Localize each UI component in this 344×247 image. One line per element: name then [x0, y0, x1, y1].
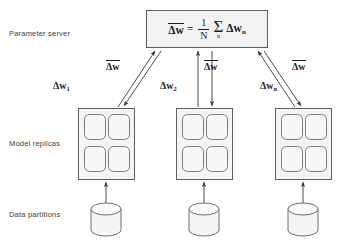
data-partition-1	[91, 203, 121, 236]
edge-label-gradient-2: Δw2	[160, 80, 177, 92]
edge-label-gradient-1-base: Δw	[53, 80, 67, 91]
edge-label-broadcast-2-base: Δw	[204, 60, 218, 72]
edge-label-gradient-n: Δwn	[260, 80, 277, 92]
edge-label-broadcast-2: Δw	[204, 60, 218, 72]
row-label-parameter-server: Parameter server	[9, 29, 70, 38]
edge-label-gradient-2-subscript: 2	[174, 85, 177, 92]
edge-label-gradient-2-base: Δw	[160, 80, 174, 91]
model-replica-2	[177, 109, 233, 180]
data-partition-n	[288, 203, 318, 236]
edge-label-gradient-n-base: Δw	[260, 80, 274, 91]
model-replica-n	[276, 109, 332, 180]
model-replica-1	[79, 109, 135, 180]
arrow-broadcast-left	[124, 51, 161, 106]
edge-label-broadcast-1: Δw	[106, 60, 120, 72]
edge-label-broadcast-1-base: Δw	[106, 60, 120, 72]
edge-label-gradient-1-subscript: 1	[67, 85, 70, 92]
edge-label-broadcast-3: Δw	[292, 60, 306, 72]
row-label-model-replicas: Model replicas	[9, 139, 60, 148]
edge-label-broadcast-3-base: Δw	[292, 60, 306, 72]
arrow-push-dwn	[258, 51, 295, 107]
edge-label-gradient-n-subscript: n	[274, 85, 278, 92]
edge-label-gradient-1: Δw1	[53, 80, 70, 92]
diagram-canvas: Parameter server Model replicas Data par…	[0, 0, 344, 247]
row-label-data-partitions: Data partitions	[9, 210, 60, 219]
arrow-push-dw1	[118, 51, 155, 107]
data-partition-2	[189, 203, 219, 236]
parameter-server-box	[147, 11, 268, 48]
